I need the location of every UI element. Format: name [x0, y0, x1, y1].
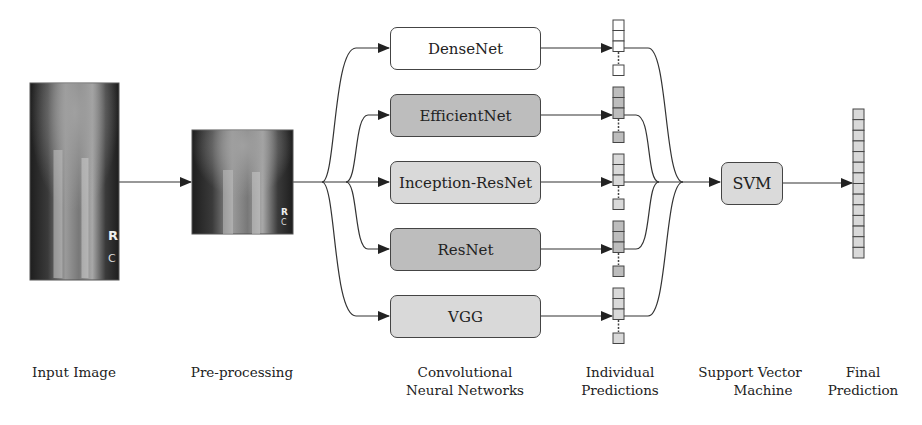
model-label: DenseNet — [428, 40, 503, 58]
model-label: Inception-ResNet — [399, 174, 532, 192]
model-label: EfficientNet — [419, 107, 511, 125]
prediction-vector-inception — [613, 154, 624, 210]
model-box-densenet: DenseNet — [390, 27, 541, 70]
stage-label-final: Final Prediction — [808, 363, 918, 399]
stage-label-input: Input Image — [24, 363, 124, 381]
arrow-to-efficientnet — [346, 115, 389, 182]
final-prediction-vector — [853, 109, 864, 258]
svg-text:R: R — [281, 207, 288, 217]
svg-text:C: C — [281, 218, 287, 227]
stage-label-preprocessing: Pre-processing — [182, 363, 302, 381]
prediction-vector-resnet — [613, 221, 624, 277]
preprocessed-xray-image: R C — [192, 130, 293, 234]
stage-label-cnn: Convolutional Neural Networks — [390, 363, 540, 399]
merge-from-resnet — [624, 182, 659, 249]
model-box-vgg: VGG — [390, 295, 541, 338]
svg-text:R: R — [108, 228, 118, 243]
input-xray-image: R C — [30, 83, 119, 280]
svm-label: SVM — [733, 174, 772, 193]
stage-label-individual: Individual Predictions — [565, 363, 675, 399]
model-label: VGG — [448, 308, 483, 326]
model-box-efficientnet: EfficientNet — [390, 94, 541, 137]
prediction-vector-efficientnet — [613, 87, 624, 143]
svm-box: SVM — [721, 162, 783, 205]
stage-label-svm: Support Vector Machine — [685, 363, 815, 399]
model-box-inception-resnet: Inception-ResNet — [390, 161, 541, 204]
pipeline-diagram: R C R C DenseNet EfficientNet Inception-… — [0, 0, 922, 425]
arrow-to-resnet — [346, 182, 389, 249]
model-box-resnet: ResNet — [390, 228, 541, 271]
svg-text:C: C — [108, 252, 116, 265]
model-label: ResNet — [438, 241, 494, 259]
prediction-vector-vgg — [613, 288, 624, 344]
prediction-vector-densenet — [613, 20, 624, 76]
merge-from-efficientnet — [624, 115, 659, 182]
